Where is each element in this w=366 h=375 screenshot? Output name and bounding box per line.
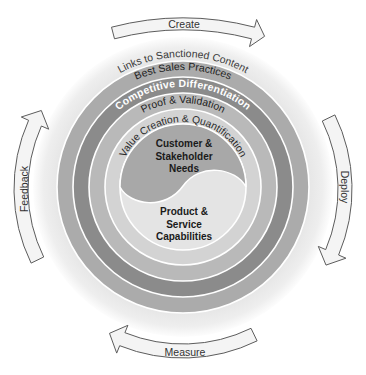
measure-arrow-label: Measure bbox=[165, 346, 206, 358]
sales-enablement-cycle-diagram: Links to Sanctioned Content Best Sales P… bbox=[0, 0, 366, 375]
core-top-line-2: Stakeholder bbox=[155, 151, 212, 162]
core-top-line-1: Customer & bbox=[156, 138, 213, 149]
create-arrow-label: Create bbox=[168, 18, 200, 30]
core-bottom-line-2: Service bbox=[166, 219, 202, 230]
core-top-line-3: Needs bbox=[169, 163, 199, 174]
core-bottom-line-3: Capabilities bbox=[156, 231, 213, 242]
deploy-arrow-label: Deploy bbox=[339, 171, 351, 204]
feedback-arrow-label: Feedback bbox=[18, 165, 30, 212]
core-bottom-line-1: Product & bbox=[160, 206, 208, 217]
